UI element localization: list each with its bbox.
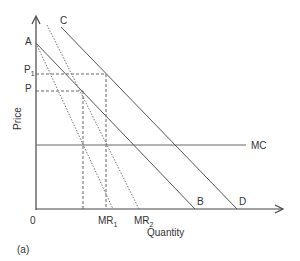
point-b-label: B (197, 196, 204, 207)
panel-label: (a) (17, 244, 29, 255)
origin-label: 0 (30, 215, 36, 226)
mr1-label: MR1 (98, 215, 118, 228)
p1-label: P1 (24, 64, 35, 77)
demand-curve-cd (61, 27, 237, 209)
y-axis-label: Price (12, 107, 23, 130)
x-axis-label: Quantity (147, 227, 184, 238)
demand-curve-ab (36, 43, 195, 209)
monopoly-diagram: A C B D MC P1 P 0 MR1 MR2 Quantity Price… (0, 0, 300, 261)
p-label: P (25, 83, 32, 94)
mr2-curve (47, 25, 139, 209)
point-d-label: D (239, 196, 246, 207)
mr1-curve (36, 43, 113, 209)
mc-label: MC (251, 140, 267, 151)
point-a-label: A (25, 36, 32, 47)
point-c-label: C (60, 15, 67, 26)
